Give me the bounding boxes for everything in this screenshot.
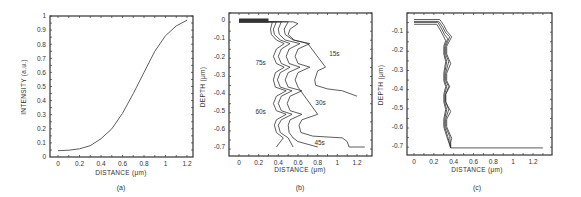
x-tick-label: 0 (56, 160, 60, 167)
x-axis-title: DISTANCE (μm) (451, 166, 503, 174)
y-tick-label: 0 (221, 16, 225, 23)
y-axis-title: DEPTH (μm) (199, 67, 207, 107)
x-tick-label: 1 (511, 158, 515, 165)
x-tick-label: 0.2 (75, 160, 84, 167)
x-axis-title: DISTANCE (μm) (274, 166, 326, 174)
x-tick-label: 0.8 (489, 158, 498, 165)
y-tick-label: -0.2 (392, 46, 404, 53)
x-tick-label: 0.4 (274, 159, 283, 166)
panel-label: (a) (117, 184, 126, 192)
y-tick-label: 0.6 (37, 69, 46, 76)
y-tick-label: -0.6 (392, 123, 404, 130)
plot-frame (50, 16, 193, 157)
time-annotation: 30s (315, 99, 326, 106)
x-tick-label: 0 (412, 158, 416, 165)
time-annotation: 45s (314, 139, 325, 146)
panel-b: 00.20.40.60.811.20-0.1-0.2-0.3-0.4-0.5-0… (199, 13, 372, 192)
y-tick-label: 0.2 (37, 125, 46, 132)
y-axis-title: INTENSITY (a.u.) (20, 59, 28, 115)
time-annotation: 15s (329, 50, 340, 57)
surface-layer-bar (239, 19, 269, 23)
x-tick-label: 0.6 (293, 159, 302, 166)
x-tick-label: 0.4 (96, 160, 105, 167)
axis-ticks (407, 13, 552, 155)
series-line-60s (239, 22, 293, 147)
x-tick-label: 0.2 (254, 159, 263, 166)
x-tick-label: 0.8 (313, 159, 322, 166)
y-tick-label: 0 (42, 153, 46, 160)
figure-canvas: 00.20.40.60.811.200.10.20.30.40.50.60.70… (0, 0, 581, 197)
plot-frame (229, 13, 372, 156)
y-tick-label: -0.3 (214, 71, 226, 78)
axis-ticks (229, 13, 372, 156)
y-tick-label: 0.5 (37, 83, 46, 90)
y-tick-label: 0.8 (37, 41, 46, 48)
y-tick-label: 1 (42, 12, 46, 19)
series-line-intensity (58, 20, 187, 151)
y-tick-label: -0.1 (392, 27, 404, 34)
x-tick-label: 0.8 (139, 160, 148, 167)
x-tick-label: 0 (237, 159, 241, 166)
x-tick-label: 1.2 (352, 159, 361, 166)
series-line-30s (239, 22, 365, 147)
x-tick-label: 1 (336, 159, 340, 166)
y-tick-label: -0.5 (392, 104, 404, 111)
x-tick-label: 1 (164, 160, 168, 167)
y-tick-label: 0.3 (37, 111, 46, 118)
x-tick-label: 0.6 (118, 160, 127, 167)
y-tick-label: -0.7 (392, 142, 404, 149)
y-tick-label: 0.7 (37, 55, 46, 62)
x-tick-label: 1.2 (528, 158, 537, 165)
y-tick-label: -0.3 (392, 66, 404, 73)
panel-c: 00.20.40.60.811.2-0.1-0.2-0.3-0.4-0.5-0.… (377, 13, 552, 192)
x-tick-label: 0.6 (469, 158, 478, 165)
y-tick-label: -0.7 (214, 143, 226, 150)
y-tick-label: 0.4 (37, 97, 46, 104)
x-tick-label: 1.2 (182, 160, 191, 167)
x-axis-title: DISTANCE (μm) (95, 169, 147, 177)
series-line-profile-1 (414, 20, 543, 148)
time-annotation: 75s (255, 59, 266, 66)
time-annotation: 60s (255, 108, 266, 115)
y-tick-label: -0.4 (214, 89, 226, 96)
y-tick-label: -0.6 (214, 125, 226, 132)
panel-label: (b) (296, 184, 305, 192)
y-tick-label: -0.4 (392, 85, 404, 92)
y-axis-title: DEPTH (μm) (377, 65, 385, 105)
y-tick-label: 0.9 (37, 26, 46, 33)
x-tick-label: 0.4 (449, 158, 458, 165)
panel-label: (c) (473, 184, 481, 192)
y-tick-label: -0.5 (214, 107, 226, 114)
y-tick-label: 0.1 (37, 139, 46, 146)
panel-a: 00.20.40.60.811.200.10.20.30.40.50.60.70… (20, 12, 193, 192)
x-tick-label: 0.2 (429, 158, 438, 165)
plot-frame (407, 13, 552, 155)
y-tick-label: -0.1 (214, 34, 226, 41)
y-tick-label: -0.2 (214, 53, 226, 60)
axis-ticks (50, 16, 193, 157)
